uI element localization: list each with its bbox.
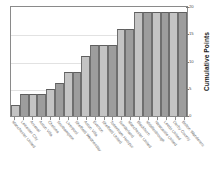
bar	[99, 45, 108, 116]
bar	[169, 12, 178, 116]
x-axis-label: Sheffield United	[99, 120, 108, 176]
bar	[55, 83, 64, 116]
y-tick-label: 15	[189, 32, 194, 36]
bar	[81, 56, 90, 116]
bar-series	[11, 7, 187, 116]
bar	[152, 12, 161, 116]
y-tick-label: 20	[189, 5, 194, 9]
bar	[46, 89, 55, 116]
x-axis-label: Leicester City	[19, 120, 28, 176]
bar	[125, 29, 134, 116]
bar	[20, 94, 29, 116]
bar	[90, 45, 99, 116]
x-axis-labels: Manchester UnitedLeicester CityArsenalAs…	[10, 120, 188, 176]
bar	[73, 72, 82, 116]
bar	[117, 29, 126, 116]
y-axis-title: Cumulative Points	[200, 6, 214, 117]
bar	[64, 72, 73, 116]
bar	[11, 105, 20, 116]
x-axis-label: Chelsea	[46, 120, 55, 176]
x-axis-label: Liverpool	[63, 120, 72, 176]
bar	[178, 12, 187, 116]
bar	[108, 45, 117, 116]
y-tick-label: 5	[189, 87, 191, 91]
x-axis-label: Southampton	[55, 120, 64, 176]
x-axis-label: Newcastle United	[153, 120, 162, 176]
x-axis-label: Aston Villa	[81, 120, 90, 176]
x-axis-label: Derby County	[170, 120, 179, 176]
x-axis-label: Leeds United	[161, 120, 170, 176]
bar	[161, 12, 170, 116]
y-tick-label: 0	[189, 114, 191, 118]
x-axis-label: Manchester United	[10, 120, 19, 176]
bar	[134, 12, 143, 116]
x-axis-label: Sunderland	[117, 120, 126, 176]
plot-area	[10, 6, 188, 117]
y-tick-label: 10	[189, 60, 194, 64]
x-axis-label-text: Bolton Wanderers	[180, 120, 204, 148]
x-axis-label: Everton	[90, 120, 99, 176]
y-axis-title-label: Cumulative Points	[204, 32, 211, 91]
x-axis-label: Blackburn	[135, 120, 144, 176]
x-axis-label: Manchester United	[126, 120, 135, 176]
cumulative-points-chart: 20151050 Cumulative Points Manchester Un…	[0, 0, 220, 176]
x-axis-label: Arsenal	[28, 120, 37, 176]
x-axis-label: Bolton Wanderers	[179, 120, 188, 176]
x-axis-label: Aston Villa	[37, 120, 46, 176]
x-axis-label: Tottenham Hotspur	[108, 120, 117, 176]
bar	[37, 94, 46, 116]
x-axis-label: Sheffield Wednesday	[72, 120, 81, 176]
x-axis-label: Middlesbrough	[144, 120, 153, 176]
bar	[143, 12, 152, 116]
bar	[29, 94, 38, 116]
